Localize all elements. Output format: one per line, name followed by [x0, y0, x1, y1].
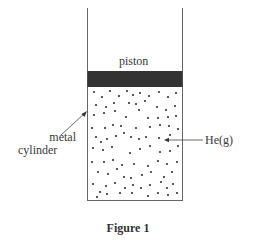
metal-cylinder-label-line2: cylinder: [18, 144, 78, 157]
figure-caption: Figure 1: [0, 221, 256, 236]
helium-gas-label: He(g): [205, 134, 233, 147]
cylinder-arrowhead-icon: [82, 111, 88, 117]
metal-cylinder-label: metal cylinder: [18, 131, 78, 157]
helium-particles: [91, 90, 179, 198]
gas-arrowhead-icon: [164, 138, 169, 142]
cylinder-diagram: [0, 0, 256, 246]
piston: [88, 71, 183, 87]
piston-label: piston: [119, 55, 148, 68]
